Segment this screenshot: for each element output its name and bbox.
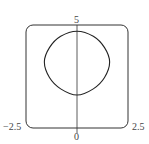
y-top-tick-label: 5 bbox=[74, 15, 79, 25]
chart: 5 −2.5 2.5 0 bbox=[0, 0, 149, 144]
x-left-tick-label: −2.5 bbox=[3, 122, 21, 132]
x-origin-tick-label: 0 bbox=[74, 132, 79, 142]
x-right-tick-label: 2.5 bbox=[132, 122, 145, 132]
